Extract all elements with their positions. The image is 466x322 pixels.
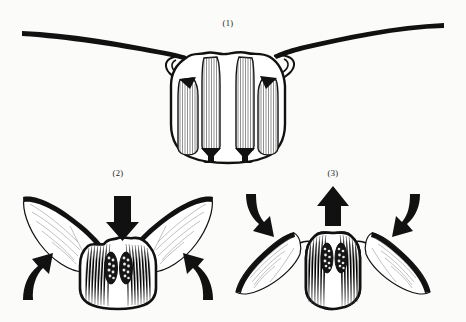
panel-3-thorax-outline-fix (306, 233, 360, 309)
illustration-canvas: (1) (0, 0, 466, 322)
muscle-bundle-4 (258, 78, 278, 155)
muscle-bundle-3 (236, 57, 254, 153)
panel-3-label: (3) (328, 168, 339, 178)
panel-1-label: (1) (223, 18, 234, 28)
muscle-bundle-1 (178, 78, 198, 155)
panel-2-label: (2) (113, 168, 124, 178)
figure-plate: (1) (0, 0, 466, 322)
muscle-bundle-2 (202, 57, 220, 153)
